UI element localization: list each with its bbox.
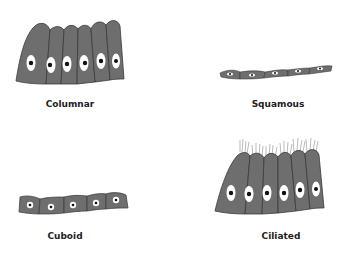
label-ciliated: Ciliated — [251, 231, 311, 241]
label-squamous: Squamous — [248, 99, 308, 109]
ciliated-epithelium — [215, 150, 324, 214]
epithelial-diagram — [0, 0, 353, 257]
label-cuboid: Cuboid — [35, 231, 95, 241]
columnar-epithelium — [16, 21, 124, 84]
label-columnar: Columnar — [40, 99, 100, 109]
